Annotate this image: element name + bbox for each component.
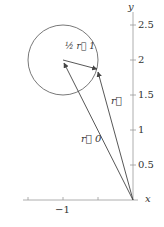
- diagram-canvas: [0, 0, 164, 227]
- y-tick-1-5: 1.5: [138, 90, 154, 100]
- label-r0: r⃗ 0: [81, 134, 101, 144]
- y-axis-label: y: [128, 2, 134, 12]
- y-tick-0-5: 0.5: [138, 160, 154, 170]
- vector-r: [98, 72, 133, 200]
- x-axis: [23, 197, 138, 200]
- y-tick-2-5: 2.5: [138, 20, 154, 30]
- y-axis: [130, 12, 136, 200]
- y-tick-1: 1: [138, 125, 144, 135]
- label-half-r1: ½ r⃗ 1: [65, 42, 95, 51]
- vector-half-r1: [63, 60, 97, 69]
- label-r: r⃗: [111, 96, 122, 106]
- vector-r0: [64, 63, 133, 200]
- y-tick-2: 2: [138, 55, 144, 65]
- x-axis-label: x: [145, 194, 151, 204]
- x-tick-minus-1: −1: [55, 205, 70, 215]
